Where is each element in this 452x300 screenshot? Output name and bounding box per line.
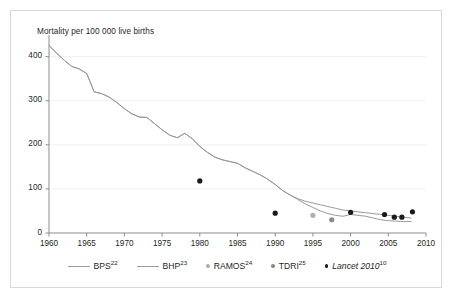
x-axis-tick-label: 1995	[296, 239, 330, 248]
y-axis-tick-label: 300	[16, 95, 42, 104]
x-axis-tick-label: 1985	[221, 239, 255, 248]
legend-reference-number: 24	[245, 259, 252, 266]
legend-item-lancet-2010: Lancet 201010	[325, 261, 387, 271]
chart-plot-area: Mortality per 100 000 live births 010020…	[11, 11, 443, 289]
legend-reference-number: 10	[380, 259, 387, 266]
legend-item-bhp: BHP23	[137, 261, 188, 271]
legend-label: BHP23	[163, 261, 188, 271]
data-point-lancet-2010	[382, 212, 387, 217]
data-point-lancet-2010	[410, 209, 415, 214]
x-axis-tick-label: 1975	[145, 239, 179, 248]
legend-label: BPS22	[94, 261, 118, 271]
data-point-lancet-2010	[348, 210, 353, 215]
data-point-ramos	[310, 213, 315, 218]
legend-item-bps: BPS22	[68, 261, 118, 271]
x-axis-tick-label: 1980	[183, 239, 217, 248]
legend-dot-swatch	[206, 264, 210, 268]
chart-legend: BPS22BHP23RAMOS24TDRI25Lancet 201010	[11, 253, 443, 279]
legend-dot-swatch	[271, 264, 275, 268]
legend-item-ramos: RAMOS24	[206, 261, 252, 271]
y-axis-tick-label: 400	[16, 51, 42, 60]
legend-dot-swatch	[325, 264, 329, 268]
data-point-lancet-2010	[399, 215, 404, 220]
x-axis-tick-label: 2005	[371, 239, 405, 248]
x-axis-tick-label: 1970	[107, 239, 141, 248]
legend-reference-number: 22	[111, 259, 118, 266]
legend-item-tdri: TDRI25	[271, 261, 306, 271]
legend-label: Lancet 201010	[332, 261, 386, 271]
data-point-lancet-2010	[197, 178, 202, 183]
data-point-tdri	[329, 217, 334, 222]
series-line-bps	[49, 46, 411, 218]
legend-line-swatch	[68, 266, 90, 267]
x-axis-tick-label: 2000	[334, 239, 368, 248]
y-axis-tick-label: 100	[16, 183, 42, 192]
y-axis-tick-label: 200	[16, 139, 42, 148]
legend-reference-number: 23	[180, 259, 187, 266]
legend-line-swatch	[137, 266, 159, 267]
x-axis-tick-label: 2010	[409, 239, 443, 248]
x-axis-tick-label: 1960	[32, 239, 66, 248]
legend-label: TDRI25	[279, 261, 306, 271]
legend-label: RAMOS24	[214, 261, 252, 271]
x-axis-tick-label: 1965	[70, 239, 104, 248]
data-point-lancet-2010	[392, 215, 397, 220]
data-point-lancet-2010	[273, 211, 278, 216]
y-axis-tick-label: 0	[16, 228, 42, 237]
legend-reference-number: 25	[299, 259, 306, 266]
figure-frame: Mortality per 100 000 live births 010020…	[10, 10, 442, 288]
series-line-bhp	[49, 46, 411, 222]
x-axis-tick-label: 1990	[258, 239, 292, 248]
